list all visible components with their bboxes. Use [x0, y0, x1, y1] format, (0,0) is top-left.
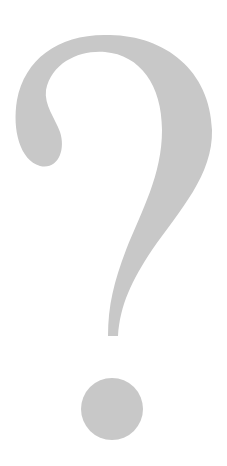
- question-mark-illustration: ?: [0, 0, 227, 466]
- question-mark-hook: [16, 35, 212, 336]
- question-mark-icon: [0, 0, 227, 466]
- question-mark-dot: [81, 378, 143, 440]
